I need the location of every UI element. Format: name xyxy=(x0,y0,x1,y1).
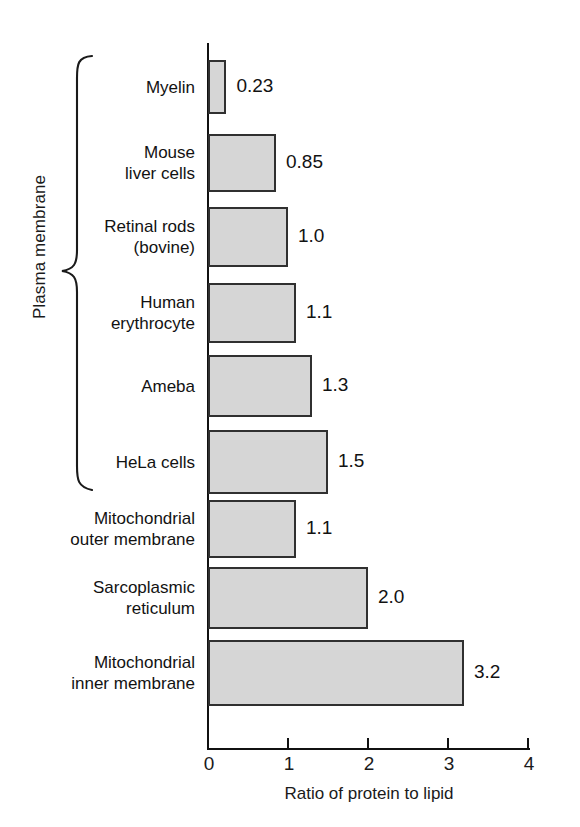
bar-value-label: 3.2 xyxy=(474,661,500,683)
bar xyxy=(208,640,464,706)
bar-value-label: 1.1 xyxy=(306,301,332,323)
bar xyxy=(208,567,368,629)
x-tick-4 xyxy=(527,738,529,749)
x-tick-1 xyxy=(287,738,289,749)
x-tick-label-1: 1 xyxy=(269,753,309,775)
x-tick-2 xyxy=(367,738,369,749)
bar-category-label: Mouseliver cells xyxy=(0,142,195,184)
bar-category-label-line: Sarcoplasmic xyxy=(0,577,195,598)
bar-category-label-line: inner membrane xyxy=(0,673,195,694)
x-tick-label-2: 2 xyxy=(349,753,389,775)
x-tick-label-0: 0 xyxy=(189,753,229,775)
bar-category-label-line: Myelin xyxy=(0,77,195,98)
bar-value-label: 1.5 xyxy=(338,450,364,472)
x-tick-label-3: 3 xyxy=(429,753,469,775)
bar-value-label: 1.1 xyxy=(306,517,332,539)
bar xyxy=(208,283,296,343)
bar-category-label-line: liver cells xyxy=(0,163,195,184)
bar-value-label: 1.0 xyxy=(298,225,324,247)
bar-category-label-line: (bovine) xyxy=(0,237,195,258)
x-axis-title: Ratio of protein to lipid xyxy=(208,784,530,804)
bar-category-label-line: HeLa cells xyxy=(0,452,195,473)
bar-category-label: Mitochondrialinner membrane xyxy=(0,652,195,694)
bar-category-label-line: reticulum xyxy=(0,598,195,619)
bar-category-label-line: Mitochondrial xyxy=(0,652,195,673)
bar-category-label-line: erythrocyte xyxy=(0,313,195,334)
bar-category-label: Ameba xyxy=(0,376,195,397)
bar-category-label-line: outer membrane xyxy=(0,529,195,550)
bar-category-label: Mitochondrialouter membrane xyxy=(0,508,195,550)
bar-category-label: Myelin xyxy=(0,77,195,98)
bar-category-label-line: Mitochondrial xyxy=(0,508,195,529)
x-tick-3 xyxy=(447,738,449,749)
bar-category-label-line: Mouse xyxy=(0,142,195,163)
plot-area: 01234 Ratio of protein to lipid Myelin0.… xyxy=(0,0,580,827)
bar-category-label: HeLa cells xyxy=(0,452,195,473)
protein-lipid-ratio-chart: Plasma membrane 01234 Ratio of protein t… xyxy=(0,0,580,827)
bar-category-label-line: Retinal rods xyxy=(0,216,195,237)
bar-category-label-line: Human xyxy=(0,292,195,313)
bar xyxy=(208,430,328,494)
bar-category-label-line: Ameba xyxy=(0,376,195,397)
bar xyxy=(208,500,296,558)
bar xyxy=(208,60,226,114)
bar-value-label: 0.85 xyxy=(286,151,323,173)
bar-category-label: Sarcoplasmicreticulum xyxy=(0,577,195,619)
x-tick-0 xyxy=(207,738,209,749)
bar xyxy=(208,355,312,417)
bar-category-label: Retinal rods(bovine) xyxy=(0,216,195,258)
bar-value-label: 1.3 xyxy=(322,374,348,396)
bar xyxy=(208,134,276,192)
bar xyxy=(208,207,288,267)
bar-value-label: 2.0 xyxy=(378,586,404,608)
x-tick-label-4: 4 xyxy=(509,753,549,775)
bar-value-label: 0.23 xyxy=(236,75,273,97)
bar-category-label: Humanerythrocyte xyxy=(0,292,195,334)
